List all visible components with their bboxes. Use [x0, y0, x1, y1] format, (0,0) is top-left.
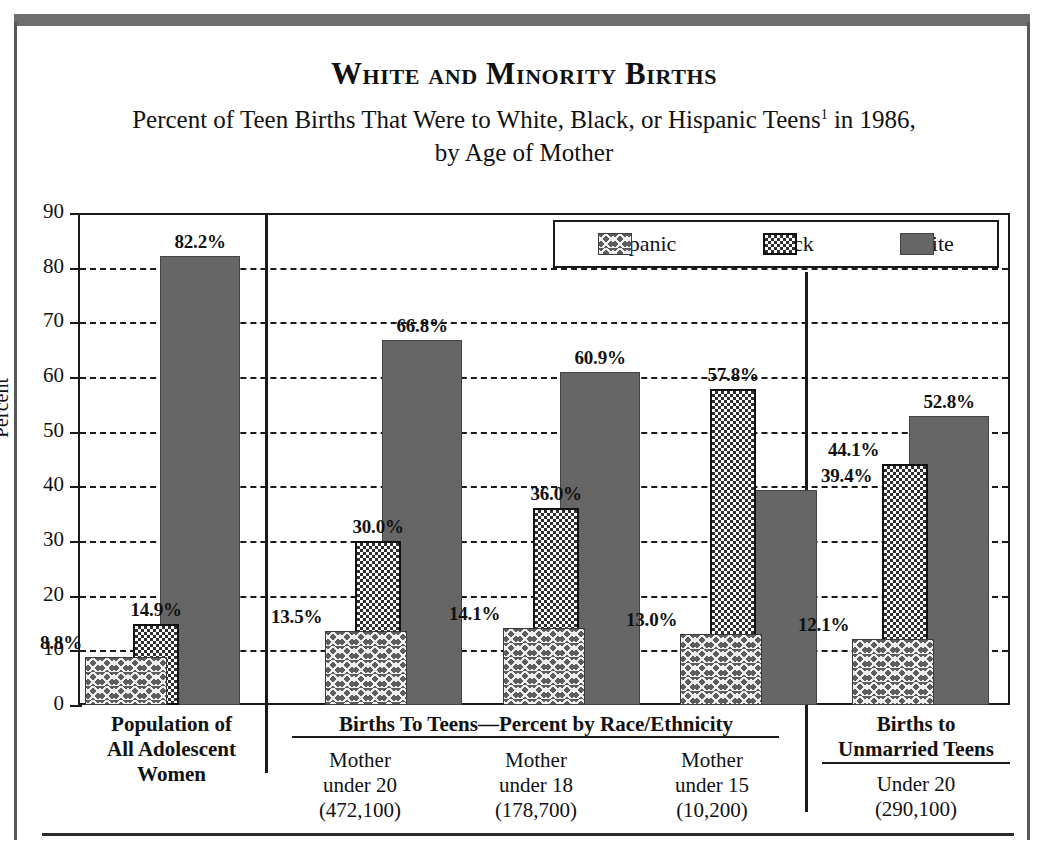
value-label-white-g1: 66.8%: [397, 315, 448, 337]
legend-item-white[interactable]: White: [900, 231, 954, 257]
page-subtitle: Percent of Teen Births That Were to Whit…: [120, 104, 928, 169]
value-label-white-g4: 52.8%: [924, 391, 975, 413]
y-tick-label-20: 20: [20, 582, 64, 607]
y-tick-label-70: 70: [20, 308, 64, 333]
group1-caption-line1: Mother: [272, 748, 448, 773]
panel3-caption-line4: (290,100): [812, 797, 1020, 822]
frame-top-bar: [14, 14, 1030, 26]
value-label-black-g0: 14.9%: [131, 599, 182, 621]
subtitle-line2: by Age of Mother: [435, 139, 613, 166]
value-label-black-g2: 36.0%: [531, 483, 582, 505]
y-tick-label-80: 80: [20, 254, 64, 279]
legend-swatch-hispanic-icon: [598, 233, 632, 255]
legend-swatch-black-icon: [763, 233, 797, 255]
panel-divider-1: [265, 213, 268, 773]
legend-item-black[interactable]: Black: [763, 231, 814, 257]
group3-caption: Mother under 15 (10,200): [624, 748, 800, 824]
subtitle-line1-b: in 1986,: [828, 106, 916, 133]
group3-caption-line3: (10,200): [624, 798, 800, 823]
group2-caption-line1: Mother: [448, 748, 624, 773]
panel3-caption: Births to Unmarried Teens: [812, 712, 1020, 762]
group3-caption-line1: Mother: [624, 748, 800, 773]
value-label-black-g3: 57.8%: [708, 364, 759, 386]
panel2-caption-text: Births To Teens—Percent by Race/Ethnicit…: [272, 712, 800, 737]
chart-page: White and Minority Births Percent of Tee…: [0, 0, 1048, 854]
group3-caption-line2: under 15: [624, 773, 800, 798]
y-tick-label-90: 90: [20, 199, 64, 224]
panel1-caption-line3: Women: [78, 762, 265, 787]
value-label-hispanic-g1: 13.5%: [271, 606, 322, 628]
group2-caption: Mother under 18 (178,700): [448, 748, 624, 824]
panel3-caption-line2: Unmarried Teens: [812, 737, 1020, 762]
y-tick-label-50: 50: [20, 418, 64, 443]
y-axis-title: Percent: [0, 378, 13, 438]
subtitle-line1-a: Percent of Teen Births That Were to Whit…: [132, 106, 821, 133]
group2-caption-line3: (178,700): [448, 798, 624, 823]
legend-item-hispanic[interactable]: Hispanic: [598, 231, 676, 257]
panel3-caption-line3: Under 20: [812, 772, 1020, 797]
group2-caption-line2: under 18: [448, 773, 624, 798]
y-tick-label-0: 0: [20, 691, 64, 716]
panel1-caption: Population of All Adolescent Women: [78, 712, 265, 786]
legend: Hispanic Black White: [553, 220, 999, 268]
value-label-white-g2: 60.9%: [575, 347, 626, 369]
group1-caption: Mother under 20 (472,100): [272, 748, 448, 824]
footer-rule: [42, 833, 1014, 836]
subtitle-footnote-marker: 1: [821, 107, 828, 122]
value-label-black-g4: 44.1%: [828, 439, 879, 461]
panel3-caption-underline: [822, 762, 1010, 764]
bar-hispanic-g2: [503, 628, 585, 705]
group1-caption-line3: (472,100): [272, 798, 448, 823]
bar-hispanic-g0: [85, 657, 167, 705]
value-label-hispanic-g4: 12.1%: [798, 614, 849, 636]
bar-hispanic-g3: [680, 634, 762, 705]
value-label-hispanic-g0: 8.8%: [40, 632, 82, 654]
bar-hispanic-g4: [852, 639, 934, 705]
bar-hispanic-g1: [325, 631, 407, 705]
frame-right-border: [1027, 22, 1030, 840]
y-tick-label-40: 40: [20, 472, 64, 497]
value-label-black-g1: 30.0%: [353, 516, 404, 538]
legend-swatch-white-icon: [900, 233, 934, 255]
value-label-hispanic-g3: 13.0%: [626, 609, 677, 631]
y-tick-0: [70, 705, 82, 707]
panel2-caption-underline: [292, 736, 779, 738]
panel1-caption-line1: Population of: [78, 712, 265, 737]
panel3-caption-line1: Births to: [812, 712, 1020, 737]
value-label-white-g0: 82.2%: [175, 231, 226, 253]
value-label-white-g3: 39.4%: [821, 465, 872, 487]
value-label-hispanic-g2: 14.1%: [449, 603, 500, 625]
page-title: White and Minority Births: [0, 56, 1048, 92]
y-tick-label-30: 30: [20, 527, 64, 552]
y-tick-label-60: 60: [20, 363, 64, 388]
panel2-caption: Births To Teens—Percent by Race/Ethnicit…: [272, 712, 800, 737]
panel1-caption-line2: All Adolescent: [78, 737, 265, 762]
panel3-subcaption: Under 20 (290,100): [812, 772, 1020, 822]
group1-caption-line2: under 20: [272, 773, 448, 798]
